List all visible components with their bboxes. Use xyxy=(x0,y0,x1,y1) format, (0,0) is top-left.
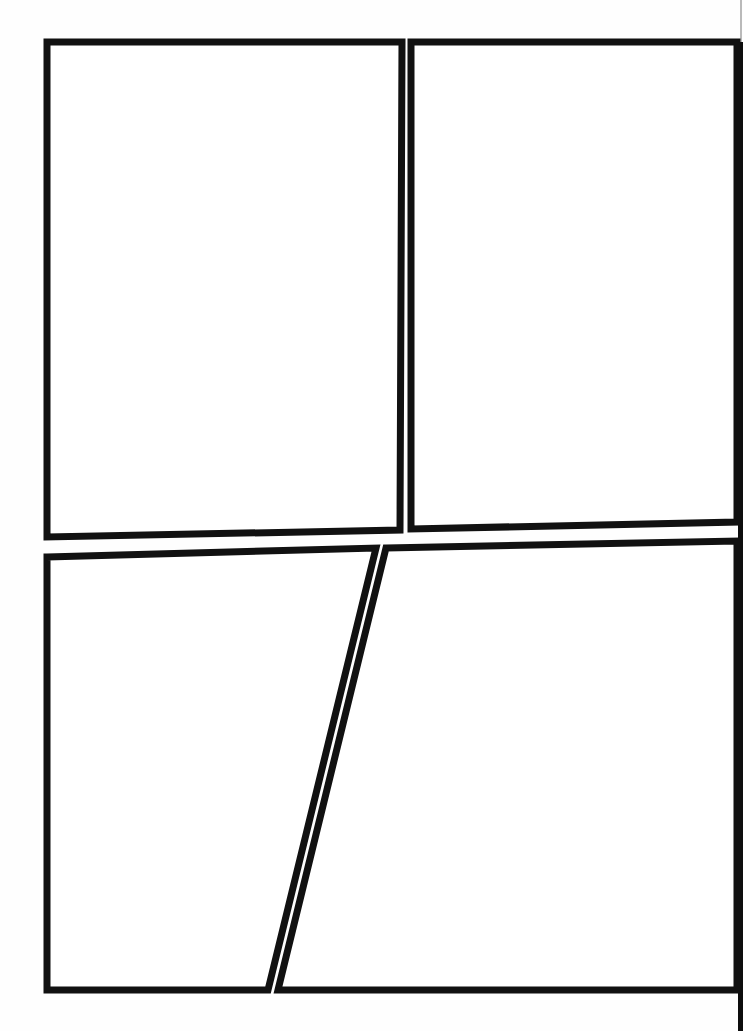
comic-page xyxy=(0,0,743,1031)
panel-top-left[interactable] xyxy=(47,42,402,537)
panel-top-right[interactable] xyxy=(411,42,737,529)
panel-layout xyxy=(0,0,743,1031)
